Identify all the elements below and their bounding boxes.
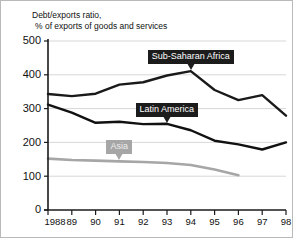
annotation-pointer-sub-saharan-africa [187,63,195,70]
annotation-sub-saharan-africa: Sub-Saharan Africa [148,50,234,64]
x-tick-label: 98 [281,216,292,227]
y-tick-label: 500 [23,34,41,46]
annotation-pointer-latin-america [163,116,171,123]
chart-plot-area: 5004003002001000 19888990919293949596979… [1,1,293,238]
x-tick-label: 90 [90,216,101,227]
x-tick-label: 89 [67,216,78,227]
annotation-pointer-asia [115,153,123,160]
x-tick-label: 91 [114,216,125,227]
y-tick-label: 100 [23,170,41,182]
x-tick-label: 93 [162,216,173,227]
x-axis-ticks: 198889909192939495969798 [44,210,291,227]
x-tick-label: 92 [138,216,149,227]
y-tick-label: 200 [23,136,41,148]
y-tick-label: 400 [23,68,41,80]
x-tick-label: 1988 [44,216,65,227]
x-tick-label: 94 [186,216,197,227]
x-tick-label: 96 [233,216,244,227]
y-tick-label: 300 [23,102,41,114]
series-lines [48,71,286,175]
annotation-asia: Asia [106,140,132,154]
annotation-latin-america: Latin America [136,103,199,117]
x-tick-label: 97 [257,216,268,227]
y-axis-ticks: 5004003002001000 [23,34,48,215]
series-line-asia [48,159,238,176]
chart-figure: Debt/exports ratio, % of exports of good… [0,0,293,238]
y-tick-label: 0 [35,203,41,215]
x-tick-label: 95 [209,216,220,227]
